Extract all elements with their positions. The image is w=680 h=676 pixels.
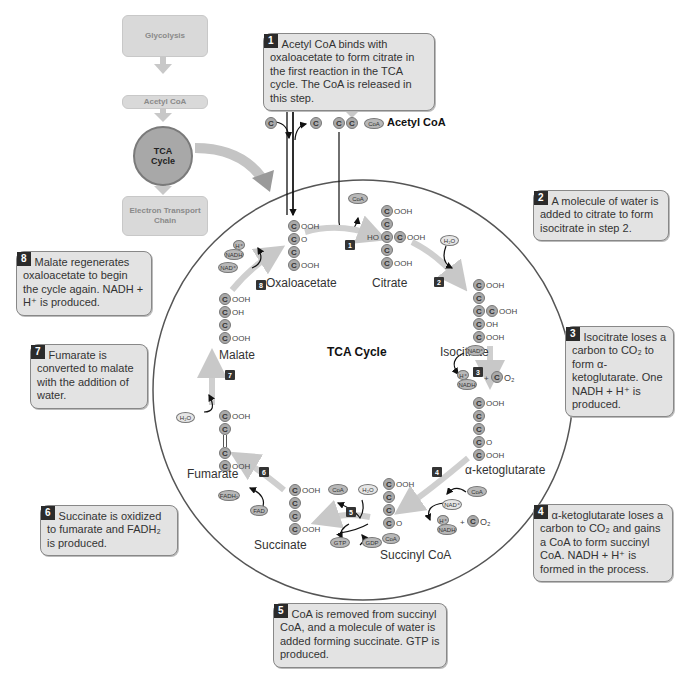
step-badge-8: 8 <box>256 280 266 290</box>
gdp-step5: GDP <box>362 537 382 548</box>
callout-step-5: 5CoA is removed from succinyl CoA, and a… <box>273 603 447 668</box>
h2o-step2: H₂O <box>440 235 459 246</box>
callout-step-8: 8Malate regenerates oxaloacetate to begi… <box>16 251 152 316</box>
coa-released: CoA <box>348 193 368 204</box>
callout-step-4: 4α-ketoglutarate loses a carbon to CO₂ a… <box>533 504 673 582</box>
h2o-step7: H₂O <box>176 412 195 423</box>
gtp-step5: GTP <box>330 537 350 548</box>
co2-oxygen-step3: O₂ <box>504 373 515 383</box>
co2-carbon-step3: C <box>491 371 503 383</box>
citrate-label: Citrate <box>372 276 407 290</box>
step-badge-2: 2 <box>434 277 444 287</box>
acetyl-coa-group: CoA <box>364 118 384 129</box>
step-badge-5: 5 <box>346 507 356 517</box>
alpha-ketoglutarate-label: α-ketoglutarate <box>465 463 545 477</box>
plus-step4: + <box>460 518 465 527</box>
acetyl-carbon-2: C <box>346 117 358 129</box>
electron-transport-chain-box: Electron Transport Chain <box>122 196 208 236</box>
glycolysis-box: Glycolysis <box>122 15 208 57</box>
oxaloacetate-label: Oxaloacetate <box>266 276 337 290</box>
step-badge-6: 6 <box>259 467 269 477</box>
callout-step-1: 1Acetyl CoA binds with oxaloacetate to f… <box>263 33 435 111</box>
succinate-label: Succinate <box>254 538 307 552</box>
nadh-step8: NADH <box>224 249 244 260</box>
step-badge-1: 1 <box>345 240 355 250</box>
callout-step-7: 7Fumarate is converted to malate with th… <box>30 344 148 409</box>
fumarate-label: Fumarate <box>187 467 238 481</box>
h2o-step5: H₂O <box>358 484 378 495</box>
co2-carbon-step4: C <box>467 515 479 527</box>
nad-step3: NAD⁺ <box>466 345 485 356</box>
nad-step4: NAD⁺ <box>442 499 462 510</box>
carbon-out: C <box>310 117 322 129</box>
acetyl-coa-label: Acetyl CoA <box>387 116 446 128</box>
nad-step8: NAD⁺ <box>218 262 238 273</box>
tca-cycle-node: TCA Cycle <box>133 126 193 186</box>
coa-step4: CoA <box>467 486 487 497</box>
acetyl-coa-box: Acetyl CoA <box>122 95 208 109</box>
acetyl-carbon-1: C <box>333 117 345 129</box>
plus-step3: + <box>484 374 489 383</box>
callout-step-6: 6Succinate is oxidized to fumarate and F… <box>40 505 178 556</box>
step-badge-4: 4 <box>432 467 442 477</box>
malate-label: Malate <box>219 348 255 362</box>
step-badge-3: 3 <box>473 367 483 377</box>
fad-step6: FAD <box>250 505 268 516</box>
center-title: TCA Cycle <box>327 345 387 359</box>
fadh2-step6: FADH₂ <box>218 490 240 501</box>
succinyl-coa-label: Succinyl CoA <box>380 548 451 562</box>
callout-step-3: 3Isocitrate loses a carbon to CO₂ to for… <box>565 326 674 417</box>
nadh-step4: NADH <box>437 524 457 535</box>
step-badge-7: 7 <box>225 370 235 380</box>
nadh-step3: NADH <box>457 379 477 390</box>
co2-oxygen-step4: O₂ <box>480 517 491 527</box>
carbon-in: C <box>265 117 277 129</box>
coa-step5: CoA <box>328 484 348 495</box>
callout-step-2: 2A molecule of water is added to citrate… <box>533 190 669 241</box>
